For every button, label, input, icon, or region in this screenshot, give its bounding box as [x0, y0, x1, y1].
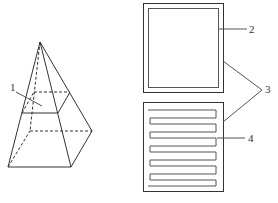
diagram-canvas: 1 2 4 3 — [0, 0, 278, 203]
pyramid — [8, 42, 92, 167]
top-panel — [144, 4, 248, 93]
label-2: 2 — [249, 23, 255, 35]
label-4: 4 — [248, 132, 254, 144]
label-3: 3 — [265, 83, 271, 95]
label-1: 1 — [10, 81, 16, 93]
leader-3 — [223, 61, 262, 122]
